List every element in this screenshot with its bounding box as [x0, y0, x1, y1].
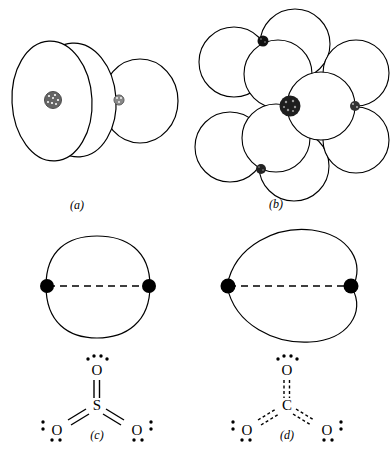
atom-center-sulfur: S	[93, 397, 101, 413]
atom-right-oxygen: O	[132, 422, 143, 438]
atom-left-oxygen: O	[242, 422, 253, 438]
bond-left-line-2	[71, 414, 89, 425]
bond-right-line-1	[296, 409, 314, 420]
panel-a: (a)	[0, 8, 195, 193]
nucleus-peripheral-upper	[258, 36, 269, 47]
panel-b-diagram	[190, 6, 390, 196]
panel-d-diagram	[190, 224, 390, 348]
lewis-structure-co3: O C O O (d)	[190, 350, 390, 442]
atom-top-oxygen: O	[282, 362, 293, 378]
nucleus-central-stippled	[280, 96, 301, 117]
panel-c-diagram	[0, 228, 195, 348]
panel-a-diagram	[0, 8, 195, 193]
atom-center-carbon: C	[282, 397, 292, 413]
atom-top-oxygen: O	[92, 362, 103, 378]
nucleus-peripheral-lower	[256, 164, 266, 174]
panel-a-label: (a)	[57, 198, 97, 213]
nucleus-peripheral-right	[350, 101, 360, 111]
nucleus-right	[344, 279, 359, 294]
panel-d-label: (d)	[267, 428, 307, 443]
nucleus-right	[142, 279, 156, 293]
panel-d-contour	[190, 224, 390, 348]
panel-b: (b)	[190, 6, 390, 196]
atom-left-oxygen: O	[52, 422, 63, 438]
bond-right-line-2	[293, 414, 311, 425]
figure-canvas: (a)	[0, 0, 390, 455]
contour-rounded-square	[46, 236, 150, 338]
panel-b-label: (b)	[256, 197, 296, 212]
bond-left-line-1	[258, 409, 276, 420]
panel-c-label: (c)	[77, 428, 117, 443]
atom-right-oxygen: O	[322, 422, 333, 438]
bond-right-line-1	[106, 409, 124, 420]
bond-right-line-2	[103, 414, 121, 425]
panel-c-contour	[0, 228, 195, 348]
nucleus-left	[40, 279, 54, 293]
lewis-structure-so3: O S O O (c)	[0, 350, 195, 442]
lone-pairs-top-oxygen	[86, 354, 108, 360]
nucleus-small-stippled	[114, 95, 124, 105]
bond-left-line-1	[68, 409, 86, 420]
bond-left-line-2	[261, 414, 279, 425]
nucleus-large-stippled	[45, 92, 62, 109]
lone-pairs-top-oxygen	[276, 354, 298, 360]
nucleus-left	[221, 279, 236, 294]
